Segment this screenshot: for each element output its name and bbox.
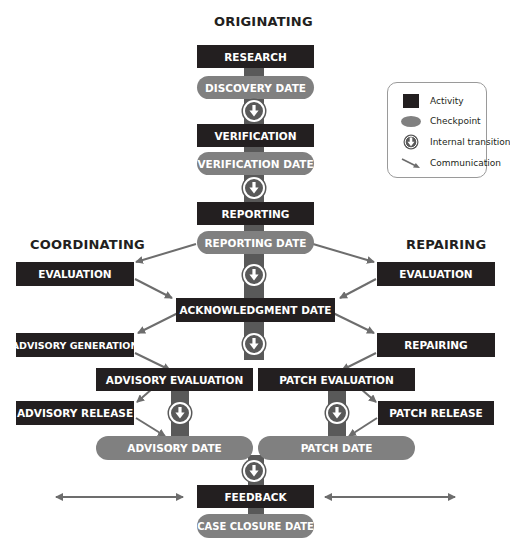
checkpoint-discovery-date: DISCOVERY DATE: [197, 76, 314, 99]
checkpoint-verification-date: VERIFICATION DATE: [197, 152, 314, 175]
communication-arrow-icon: [400, 155, 422, 171]
heading-repairing: REPAIRING: [406, 237, 486, 252]
heading-originating: ORIGINATING: [214, 14, 313, 29]
activity-advisory-release: ADVISORY RELEASE: [16, 401, 134, 425]
activity-verification: VERIFICATION: [197, 124, 314, 147]
legend-item-transition: Internal transition: [400, 134, 510, 150]
checkpoint-patch-date: PATCH DATE: [258, 436, 415, 460]
activity-patch-release: PATCH RELEASE: [378, 401, 494, 425]
internal-transition-icon: [243, 264, 265, 286]
activity-reporting: REPORTING: [197, 202, 314, 225]
activity-acknowledgment-date: ACKNOWLEDGMENT DATE: [176, 298, 335, 322]
transition-circle-icon: [400, 134, 422, 150]
checkpoint-reporting-date: REPORTING DATE: [197, 231, 314, 254]
heading-coordinating: COORDINATING: [30, 237, 145, 252]
checkpoint-advisory-date: ADVISORY DATE: [96, 436, 253, 460]
internal-transition-icon: [243, 460, 265, 482]
legend: Activity Checkpoint Internal transition …: [387, 82, 487, 178]
legend-item-communication: Communication: [400, 155, 501, 171]
internal-transition-icon: [326, 402, 348, 424]
activity-square-icon: [400, 93, 422, 109]
internal-transition-icon: [169, 402, 191, 424]
checkpoint-case-closure-date: CASE CLOSURE DATE: [197, 514, 314, 538]
activity-patch-evaluation: PATCH EVALUATION: [258, 368, 415, 391]
legend-item-activity: Activity: [400, 93, 464, 109]
activity-repairing-evaluation: EVALUATION: [377, 262, 495, 286]
checkpoint-ellipse-icon: [400, 113, 422, 129]
activity-feedback: FEEDBACK: [197, 485, 314, 508]
internal-transition-icon: [243, 177, 265, 199]
activity-advisory-evaluation: ADVISORY EVALUATION: [96, 368, 253, 391]
internal-transition-icon: [243, 100, 265, 122]
activity-repairing: REPAIRING: [377, 333, 495, 357]
legend-item-checkpoint: Checkpoint: [400, 113, 481, 129]
activity-research: RESEARCH: [197, 45, 314, 68]
activity-coordinating-evaluation: EVALUATION: [16, 262, 134, 286]
internal-transition-icon: [243, 333, 265, 355]
activity-advisory-generation: ADVISORY GENERATION: [16, 333, 134, 357]
